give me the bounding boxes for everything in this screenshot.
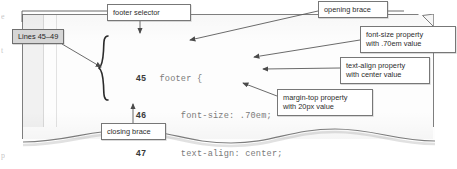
line-content: footer { (159, 73, 202, 85)
callout-text-align-line1: text-align property (346, 61, 424, 70)
callout-font-size-property[interactable]: font-size property with .70em value (360, 26, 456, 53)
callout-closing-brace[interactable]: closing brace (101, 123, 166, 140)
margin-bleed-glyph-b: t (1, 47, 3, 55)
callout-closing-brace-label: closing brace (107, 127, 160, 136)
line-content: text-align: center; (159, 148, 282, 160)
callout-footer-selector[interactable]: footer selector (107, 4, 191, 21)
margin-bleed-glyph-a: e (1, 13, 5, 21)
line-number: 45 (126, 73, 146, 85)
callout-opening-brace-label: opening brace (324, 5, 382, 14)
line-number: 46 (126, 110, 146, 122)
line-number: 47 (126, 148, 146, 160)
callout-opening-brace[interactable]: opening brace (318, 1, 388, 18)
code-block: 45footer { 46 font-size: .70em; 47 text-… (105, 36, 283, 169)
code-line: 45footer { (105, 61, 283, 73)
callout-text-align-line2: with center value (346, 70, 424, 79)
callout-text-align-property[interactable]: text-align property with center value (340, 57, 430, 84)
code-line: 46 font-size: .70em; (105, 98, 283, 110)
line-content: font-size: .70em; (159, 110, 272, 122)
callout-lines-badge-label: Lines 45–49 (18, 32, 58, 41)
callout-margin-top-property[interactable]: margin-top property with 20px value (277, 89, 373, 116)
margin-bleed-glyph-c: p (1, 152, 5, 160)
callout-margin-top-line1: margin-top property (283, 93, 367, 102)
callout-font-size-line1: font-size property (366, 30, 450, 39)
callout-font-size-line2: with .70em value (366, 39, 450, 48)
callout-margin-top-line2: with 20px value (283, 102, 367, 111)
callout-lines-badge[interactable]: Lines 45–49 (12, 29, 64, 44)
callout-footer-selector-label: footer selector (113, 8, 185, 17)
